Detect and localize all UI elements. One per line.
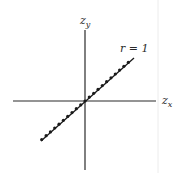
data-point [40,138,43,141]
data-point [101,84,104,87]
data-point [92,92,95,95]
data-point [57,123,60,126]
data-point [70,111,73,114]
data-point [96,88,99,91]
data-point [75,107,78,110]
data-point [79,103,82,106]
data-point [49,130,52,133]
correlation-diagram: zy zx r = 1 [0,0,178,173]
data-point [105,80,108,83]
data-point [83,99,86,102]
data-point [118,69,121,72]
data-point [114,72,117,75]
data-point [88,96,91,99]
x-axis-label: zx [161,94,173,109]
correlation-annotation: r = 1 [120,42,148,55]
data-point [66,115,69,118]
data-point [45,134,48,137]
data-point [53,126,56,129]
data-point [122,65,125,68]
data-point [62,119,65,122]
data-point [109,76,112,79]
y-axis-label: zy [79,14,91,29]
data-point [127,61,130,64]
